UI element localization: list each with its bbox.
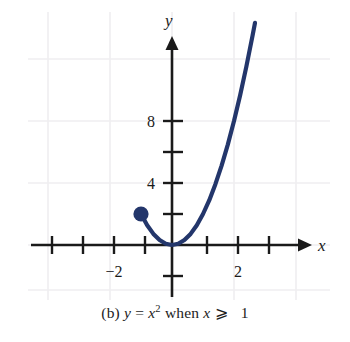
caption-part-x2: x xyxy=(203,304,210,321)
caption-part-equals: = xyxy=(135,304,144,321)
caption-part-y: y xyxy=(124,304,131,321)
caption-part-exponent: 2 xyxy=(155,303,160,314)
caption-part-relation: ⩾ xyxy=(215,304,228,321)
y-tick-label-8: 8 xyxy=(147,113,155,130)
caption-part-when: when xyxy=(165,304,199,321)
parabola-curve xyxy=(141,23,255,245)
caption-part-label: (b) xyxy=(101,304,120,321)
y-tick-label-4: 4 xyxy=(147,175,155,192)
y-axis xyxy=(166,36,179,297)
grid-lines xyxy=(28,12,330,300)
caption-part-bound: 1 xyxy=(241,304,249,321)
graph-plot: x y −2 2 4 8 xyxy=(0,0,350,342)
x-tick-label-neg2: −2 xyxy=(105,263,122,280)
figure-container: x y −2 2 4 8 (b) y = x2 when x ⩾1 xyxy=(0,0,350,342)
figure-caption: (b) y = x2 when x ⩾1 xyxy=(0,303,350,322)
x-axis-label: x xyxy=(317,236,326,255)
y-axis-label: y xyxy=(163,11,173,30)
x-tick-label-2: 2 xyxy=(234,263,242,280)
endpoint-dot xyxy=(133,206,148,221)
